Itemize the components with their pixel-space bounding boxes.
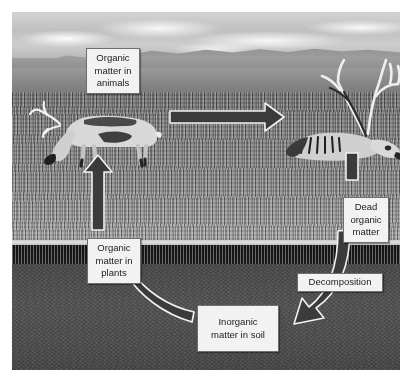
- label-organic-matter-in-plants: Organic matter in plants: [87, 238, 141, 284]
- nutrient-cycle-figure: .arw { fill: #3b3b3b; stroke: #f2f2f2; s…: [0, 0, 420, 392]
- label-dead-organic-matter: Dead organic matter: [343, 197, 389, 243]
- label-inorganic-matter-in-soil: Inorganic matter in soil: [197, 305, 279, 352]
- label-decomposition: Decomposition: [297, 273, 383, 292]
- dead-caribou: [280, 54, 400, 169]
- grazing-caribou: [26, 84, 176, 169]
- label-organic-matter-in-animals: Organic matter in animals: [86, 48, 140, 94]
- tundra-photograph: .arw { fill: #3b3b3b; stroke: #f2f2f2; s…: [12, 12, 400, 370]
